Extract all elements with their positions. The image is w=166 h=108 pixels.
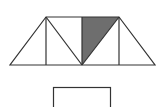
diagram-canvas <box>0 0 166 107</box>
bottom-rectangle <box>54 88 111 108</box>
left-diagonal <box>46 17 82 65</box>
